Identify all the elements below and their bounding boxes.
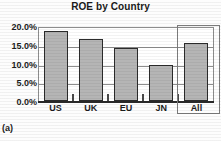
bar-slot-all <box>178 28 213 101</box>
bar-slot-us <box>39 28 74 101</box>
category-tick-3 <box>142 94 144 101</box>
x-tick-label-eu: EU <box>108 103 143 113</box>
figure-panel: ROE by Country 20.0% 15.0% 10.0% 5.0% 0.… <box>0 0 221 141</box>
x-tick-label-us: US <box>38 103 73 113</box>
x-tick-label-uk: UK <box>73 103 108 113</box>
plot-area <box>38 27 214 102</box>
bar-slot-uk <box>74 28 109 101</box>
x-tick-label-jn: JN <box>144 103 179 113</box>
y-tick-label-5: 5.0% <box>1 78 37 88</box>
category-tick-4 <box>177 94 179 101</box>
bar-uk[interactable] <box>79 39 103 101</box>
category-tick-2 <box>107 94 109 101</box>
figure-caption: (a) <box>2 123 13 133</box>
bar-us[interactable] <box>44 31 68 101</box>
bar-slot-eu <box>109 28 144 101</box>
y-tick-label-20: 20.0% <box>1 22 37 32</box>
bar-slot-jn <box>143 28 178 101</box>
y-axis-tick-labels: 20.0% 15.0% 10.0% 5.0% 0.0% <box>0 27 37 102</box>
x-axis-tick-labels: US UK EU JN All <box>38 103 214 117</box>
y-tick-label-15: 15.0% <box>1 41 37 51</box>
category-tick-1 <box>72 94 74 101</box>
bar-eu[interactable] <box>114 48 138 101</box>
y-tick-label-10: 10.0% <box>1 60 37 70</box>
x-tick-label-all: All <box>179 103 214 113</box>
bar-jn[interactable] <box>149 65 173 102</box>
bar-all[interactable] <box>184 43 208 101</box>
y-tick-label-0: 0.0% <box>1 97 37 107</box>
chart-title: ROE by Country <box>0 1 221 12</box>
